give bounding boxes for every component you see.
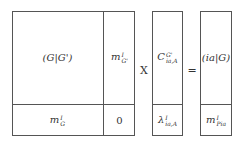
vector-x-bottom-cell: λIia,A (152, 105, 183, 136)
m-g-prime-term: mIG' (111, 51, 128, 64)
coulomb-metric-label: (G|G') (43, 52, 73, 63)
ia-g-integral-term: (ia|G) (202, 52, 230, 63)
multiply-operator: X (136, 60, 152, 80)
lambda-term: λIia,A (158, 114, 177, 127)
equals-symbol: = (187, 64, 196, 77)
vector-b-bottom-cell: mIPia (200, 105, 232, 136)
vector-b-top-cell: (ia|G) (200, 11, 232, 104)
vector-x-top-cell: CG'ia,A (152, 11, 183, 104)
c-coefficient-term: CG'ia,A (157, 51, 177, 64)
matrix-a-bottom-left-cell: mIG (12, 105, 103, 136)
matrix-a-top-left-cell: (G|G') (12, 11, 103, 104)
equals-operator: = (184, 60, 200, 80)
zero-entry: 0 (116, 115, 122, 126)
m-pia-term: mIPia (206, 114, 226, 127)
matrix-a-top-right-cell: mIG' (104, 11, 135, 104)
matrix-a-bottom-right-cell: 0 (104, 105, 135, 136)
multiply-symbol: X (140, 64, 148, 77)
m-g-term: mIG (50, 114, 65, 127)
